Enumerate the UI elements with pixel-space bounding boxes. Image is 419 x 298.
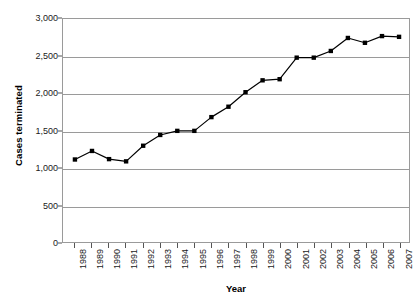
x-axis-tick-label: 1990 — [112, 249, 122, 269]
x-axis-tick-label: 1998 — [249, 249, 259, 269]
line-chart-figure: Cases terminated 05001,0001,5002,0002,50… — [0, 0, 419, 298]
x-axis-tick-label: 2000 — [283, 249, 293, 269]
data-point-marker — [397, 35, 401, 39]
data-point-marker — [329, 49, 333, 53]
x-axis-tick-mark — [314, 243, 315, 248]
x-axis-tick-label: 1994 — [180, 249, 190, 269]
x-axis-tick-label: 2003 — [335, 249, 345, 269]
x-axis-tick-label: 2004 — [352, 249, 362, 269]
x-axis-tick-label: 1992 — [146, 249, 156, 269]
x-axis-tick-mark — [400, 243, 401, 248]
x-axis-tick-mark — [383, 243, 384, 248]
series-polyline — [75, 36, 399, 161]
x-axis-tick-label: 2005 — [369, 249, 379, 269]
data-series-line — [63, 19, 409, 242]
x-axis-tick-label: 1989 — [95, 249, 105, 269]
y-axis-tick-label: 500 — [43, 201, 58, 211]
x-axis-tick-label: 1993 — [163, 249, 173, 269]
x-axis-tick-mark — [349, 243, 350, 248]
x-axis-tick-label: 2001 — [301, 249, 311, 269]
x-axis-tick-mark — [331, 243, 332, 248]
y-axis-tick-label: 1,500 — [35, 126, 58, 136]
plot-area — [62, 18, 410, 243]
y-axis-tick-label: 1,000 — [35, 163, 58, 173]
data-point-marker — [158, 133, 162, 137]
x-axis-tick-label: 1991 — [129, 249, 139, 269]
x-axis-tick-mark — [228, 243, 229, 248]
x-axis-tick-mark — [91, 243, 92, 248]
data-point-marker — [312, 55, 316, 59]
y-axis-title-label: Cases terminated — [13, 85, 24, 166]
x-axis-tick-mark — [74, 243, 75, 248]
x-axis-tick-label: 1995 — [198, 249, 208, 269]
data-point-marker — [226, 105, 230, 109]
data-point-marker — [277, 77, 281, 81]
data-point-marker — [73, 157, 77, 161]
y-axis-tick-labels: 05001,0001,5002,0002,5003,000 — [24, 18, 62, 243]
data-point-marker — [260, 78, 264, 82]
data-point-marker — [107, 157, 111, 161]
data-point-marker — [295, 55, 299, 59]
x-axis-tick-label: 1997 — [232, 249, 242, 269]
x-axis-tick-mark — [194, 243, 195, 248]
x-axis-tick-mark — [280, 243, 281, 248]
data-point-marker — [346, 36, 350, 40]
x-axis-tick-mark — [366, 243, 367, 248]
x-axis-tick-mark — [211, 243, 212, 248]
x-axis-tick-mark — [143, 243, 144, 248]
x-axis-tick-label: 2002 — [318, 249, 328, 269]
data-point-marker — [90, 149, 94, 153]
data-point-marker — [380, 34, 384, 38]
x-axis-tick-label: 1999 — [266, 249, 276, 269]
x-axis-tick-mark — [177, 243, 178, 248]
data-point-marker — [363, 41, 367, 45]
data-point-marker — [209, 115, 213, 119]
x-axis-tick-mark — [108, 243, 109, 248]
data-point-marker — [192, 129, 196, 133]
x-axis-tick-mark — [263, 243, 264, 248]
x-axis-tick-mark — [125, 243, 126, 248]
x-axis-tick-label: 1996 — [215, 249, 225, 269]
x-axis-tick-label: 1988 — [78, 249, 88, 269]
y-axis-tick-label: 2,500 — [35, 51, 58, 61]
data-point-marker — [141, 144, 145, 148]
x-axis-tick-label: 2007 — [404, 249, 414, 269]
data-point-marker — [124, 159, 128, 163]
x-axis-title: Year — [62, 283, 410, 294]
data-point-marker — [175, 129, 179, 133]
x-axis-tick-label: 2006 — [386, 249, 396, 269]
x-axis-tick-mark — [297, 243, 298, 248]
y-axis-tick-label: 3,000 — [35, 13, 58, 23]
y-axis-tick-label: 2,000 — [35, 88, 58, 98]
x-axis-tick-labels: 1988198919901991199219931994199519961997… — [62, 249, 410, 283]
x-axis-tick-mark — [160, 243, 161, 248]
data-point-marker — [243, 90, 247, 94]
x-axis-tick-mark — [246, 243, 247, 248]
